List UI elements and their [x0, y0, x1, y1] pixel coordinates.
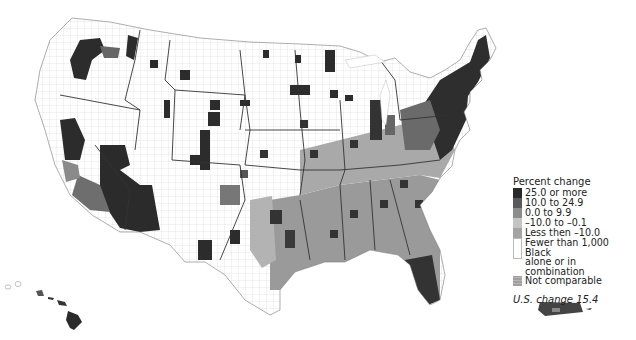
legend-item-fewer-than-1000: Fewer than 1,000 Black alone or in combi… — [513, 238, 636, 276]
legend-item-not-comparable: Not comparable — [513, 276, 636, 286]
swatch-less-than-neg10 — [513, 228, 522, 238]
swatch-10-to-24 — [513, 198, 522, 208]
legend: Percent change 25.0 or more 10.0 to 24.9… — [513, 176, 636, 305]
hawaii — [5, 282, 82, 331]
swatch-not-comparable — [513, 276, 522, 286]
swatch-25-or-more — [513, 188, 522, 198]
swatch-fewer-than-1000 — [513, 238, 522, 259]
swatch-neg10-to-neg0 — [513, 218, 522, 228]
us-change-note: U.S. change 15.4 — [513, 294, 636, 305]
legend-title: Percent change — [513, 176, 636, 187]
legend-item-line2: alone or in combination — [525, 256, 585, 277]
legend-item-line1: Fewer than 1,000 Black — [525, 237, 609, 258]
swatch-0-to-9 — [513, 208, 522, 218]
